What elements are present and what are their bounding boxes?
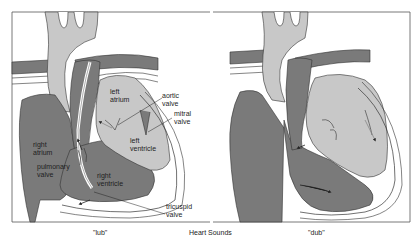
- label-right-ventricle: right ventricle: [97, 172, 123, 188]
- caption-lub: "lub": [93, 229, 107, 236]
- heart-diagram-dub: [0, 0, 420, 243]
- label-pulmonary-valve: pulmonary valve: [37, 163, 70, 179]
- label-tricuspid-valve: tricuspid valve: [166, 203, 192, 219]
- label-left-atrium: left atrium: [110, 88, 129, 104]
- heart-sounds-figure: left atrium aortic valve mitral valve le…: [0, 0, 420, 243]
- label-left-ventricle: left ventricle: [130, 137, 156, 153]
- label-mitral-valve: mitral valve: [174, 110, 191, 126]
- label-right-atrium: right atrium: [33, 141, 52, 157]
- label-aortic-valve: aortic valve: [162, 92, 179, 108]
- caption-dub: "dub": [308, 229, 325, 236]
- figure-title: Heart Sounds: [189, 229, 232, 236]
